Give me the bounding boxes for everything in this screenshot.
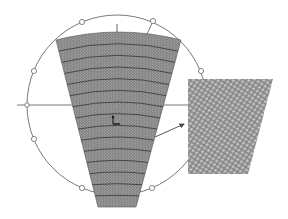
- axis-node-circle: [25, 103, 29, 107]
- marker-circle: [31, 68, 36, 73]
- marker-circle: [149, 185, 154, 190]
- diagram-canvas: [0, 0, 288, 219]
- magnified-lattice-inset: [188, 79, 273, 174]
- marker-circle: [31, 136, 36, 141]
- fan-lattice-sector: [56, 32, 181, 207]
- marker-circle: [79, 19, 84, 24]
- marker-circle: [198, 68, 203, 73]
- marker-circle: [150, 18, 155, 23]
- magnification-arrow: [155, 124, 184, 137]
- marker-circle: [79, 185, 84, 190]
- lattice-diagram: [0, 0, 288, 219]
